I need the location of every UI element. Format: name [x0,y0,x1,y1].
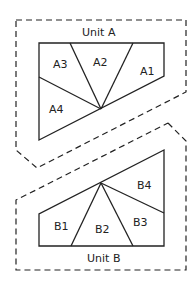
unit-a-title: Unit A [82,26,116,39]
section-b1-label: B1 [54,220,69,233]
section-b2-label: B2 [95,223,110,236]
section-b4-label: B4 [137,179,152,192]
unit-a-boundary [16,20,186,168]
unit-b-boundary [16,123,186,270]
section-a4-label: A4 [49,103,64,116]
section-a3-label: A3 [53,58,68,71]
units-diagram: Unit A A1 A2 A3 A4 B4 B1 B2 B3 Unit B [0,0,196,285]
unit-b-title: Unit B [87,252,120,265]
section-b3-label: B3 [133,216,148,229]
section-a1-label: A1 [140,65,155,78]
section-a2-label: A2 [93,56,108,69]
